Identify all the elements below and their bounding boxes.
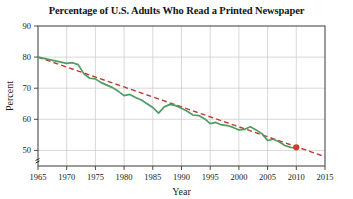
x-tick-label-1970: 1970 [58,172,75,182]
y-tick-label-50: 50 [23,145,32,155]
y-tick-label-80: 80 [23,52,32,62]
chart-plot-area: 90 80 70 60 50 1965 1970 1975 1980 1985 … [0,0,353,199]
y-tick-label-70: 70 [23,83,32,93]
x-tick-label-2010: 2010 [288,172,305,182]
y-axis-tick-labels: 90 80 70 60 50 [23,21,32,155]
x-tick-label-2015: 2015 [317,172,334,182]
chart-container: Percentage of U.S. Adults Who Read a Pri… [0,0,353,199]
x-axis-title: Year [172,186,191,197]
x-tick-label-1995: 1995 [202,172,219,182]
x-tick-label-2005: 2005 [259,172,276,182]
y-tick-label-60: 60 [23,114,32,124]
x-axis-ticks [38,166,325,170]
trend-endpoint-marker [293,144,299,150]
y-axis-ticks [34,26,38,150]
x-tick-label-2000: 2000 [230,172,247,182]
x-tick-label-1985: 1985 [144,172,161,182]
x-tick-label-1975: 1975 [87,172,104,182]
x-tick-label-1965: 1965 [30,172,47,182]
y-tick-label-90: 90 [23,21,32,31]
x-tick-label-1980: 1980 [116,172,133,182]
x-axis-tick-labels: 1965 1970 1975 1980 1985 1990 1995 2000 … [30,172,334,182]
x-tick-label-1990: 1990 [173,172,190,182]
y-axis-title: Percent [4,81,15,111]
